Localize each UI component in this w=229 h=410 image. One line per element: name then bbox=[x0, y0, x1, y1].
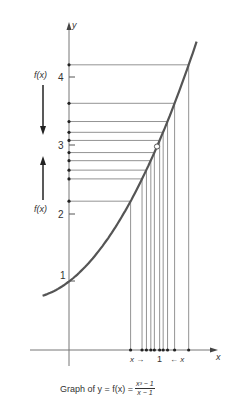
point-dot bbox=[158, 348, 161, 351]
point-dot bbox=[173, 348, 176, 351]
down-arrow-icon bbox=[40, 126, 46, 135]
point-dot bbox=[67, 139, 70, 142]
caption-prefix: Graph of y = f(x) = bbox=[60, 384, 133, 394]
caption-denominator: x − 1 bbox=[137, 389, 152, 397]
point-dot bbox=[67, 159, 70, 162]
caption-numerator: x³ − 1 bbox=[135, 380, 155, 389]
point-dot bbox=[166, 348, 169, 351]
point-dot bbox=[67, 120, 70, 123]
y-tick-label-3: 3 bbox=[58, 140, 64, 151]
point-dot bbox=[67, 200, 70, 203]
y-tick-label-2: 2 bbox=[58, 209, 64, 220]
point-dot bbox=[153, 348, 156, 351]
point-dot bbox=[162, 348, 165, 351]
point-dot bbox=[149, 348, 152, 351]
axis-points bbox=[67, 63, 190, 351]
caption-fraction: x³ − 1 x − 1 bbox=[135, 380, 155, 397]
point-dot bbox=[129, 348, 132, 351]
figure-caption: Graph of y = f(x) = x³ − 1 x − 1 bbox=[60, 380, 229, 397]
vertical-guide-lines bbox=[131, 65, 189, 350]
point-dot bbox=[145, 348, 148, 351]
point-dot bbox=[187, 348, 190, 351]
y-axis-label: y bbox=[71, 20, 77, 30]
y-axis-arrow-icon bbox=[67, 22, 72, 30]
x-tick-label-1: 1 bbox=[157, 354, 162, 364]
point-dot bbox=[67, 102, 70, 105]
function-curve bbox=[43, 42, 197, 296]
fx-label-top: f(x) bbox=[34, 70, 47, 80]
point-dot bbox=[67, 63, 70, 66]
point-dot bbox=[67, 177, 70, 180]
point-dot bbox=[67, 169, 70, 172]
point-dot bbox=[140, 348, 143, 351]
point-dot bbox=[67, 131, 70, 134]
horizontal-guide-lines bbox=[69, 65, 189, 201]
up-arrow-icon bbox=[40, 156, 46, 165]
x-axis-label: x bbox=[215, 352, 221, 362]
hole-point bbox=[154, 144, 159, 149]
fx-label-bottom: f(x) bbox=[34, 204, 47, 214]
x-from-left-label: x → bbox=[129, 355, 144, 364]
x-from-right-label: ← x bbox=[170, 355, 185, 364]
y-tick-label-4: 4 bbox=[58, 72, 64, 83]
point-dot bbox=[67, 151, 70, 154]
graph-figure: y x 4 3 2 1 1 x → ← x f(x) f(x) bbox=[0, 0, 229, 380]
y-tick-label-1: 1 bbox=[60, 270, 66, 281]
